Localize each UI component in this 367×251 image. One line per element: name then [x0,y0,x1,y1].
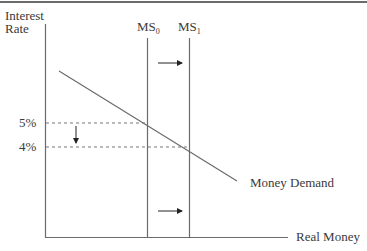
ms0-name: MS [137,19,156,34]
ms1-subscript: 1 [197,27,201,36]
ms1-label: MS1 [178,20,201,39]
x-axis-label: Real Money [296,230,360,244]
ms0-subscript: 0 [156,27,160,36]
rate-5-label: 5% [19,116,36,130]
ms1-name: MS [178,19,197,34]
ms0-label: MS0 [137,20,160,39]
rate-4-label: 4% [19,140,36,154]
money-demand-label: Money Demand [250,176,334,190]
y-axis-label-line2: Rate [5,22,29,36]
